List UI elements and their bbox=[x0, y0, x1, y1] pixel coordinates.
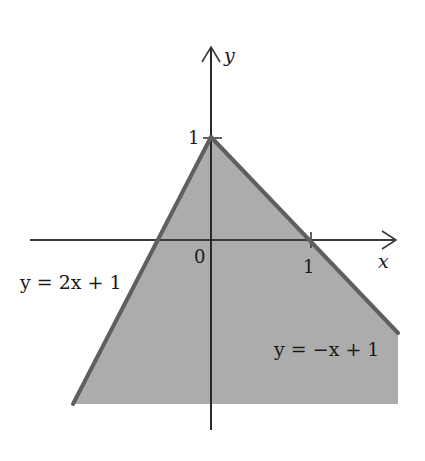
annotation-y-2x-plus-1: y = 2x + 1 bbox=[19, 271, 122, 293]
y-axis-label: y bbox=[223, 44, 235, 66]
x-axis-label: x bbox=[378, 250, 389, 272]
shaded-region bbox=[73, 137, 398, 404]
y-tick-1-label: 1 bbox=[188, 127, 199, 148]
annotation-y-neg-x-plus-1: y = −x + 1 bbox=[273, 338, 379, 360]
inequality-graph: y x 0 1 1 y = 2x + 1 y = −x + 1 bbox=[0, 0, 425, 461]
x-tick-1-label: 1 bbox=[303, 256, 314, 277]
origin-label: 0 bbox=[194, 246, 205, 267]
